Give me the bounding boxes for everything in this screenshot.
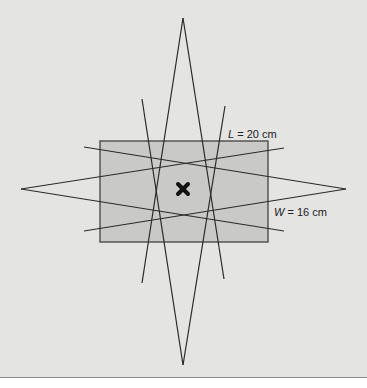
width-label: W = 16 cm: [274, 206, 327, 218]
length-label: L = 20 cm: [228, 128, 277, 140]
rectangle-diagram: L = 20 cm W = 16 cm: [0, 0, 367, 388]
